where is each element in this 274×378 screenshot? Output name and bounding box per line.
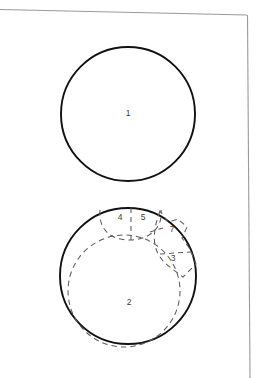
label-4: 4 — [118, 212, 123, 222]
page-border-right — [248, 15, 251, 378]
upper-figure-group: 1 — [61, 47, 195, 181]
inner-dashed-circle-region-2 — [68, 235, 180, 347]
figure-page: 1 2 3 4 5 7 — [0, 0, 274, 378]
label-1: 1 — [126, 108, 131, 118]
label-2: 2 — [127, 297, 132, 307]
technical-figure: 1 2 3 4 5 7 — [0, 0, 274, 378]
label-5: 5 — [141, 212, 146, 222]
label-7: 7 — [170, 224, 175, 234]
lower-figure-group: 2 3 4 5 7 — [60, 208, 196, 347]
lower-circle-outline — [60, 208, 196, 344]
label-3: 3 — [171, 253, 176, 263]
page-border-top — [0, 10, 247, 16]
